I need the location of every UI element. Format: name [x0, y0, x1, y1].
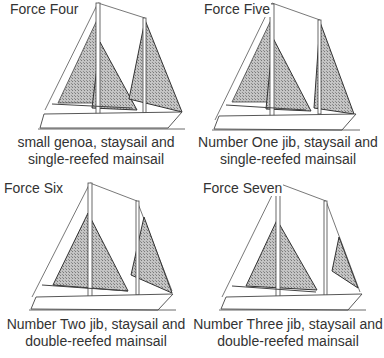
panel-caption: Number Three jib, staysail and double-re… [192, 316, 384, 350]
mizzen-sail [129, 20, 182, 112]
hull [40, 112, 182, 128]
caption-line-2: double-reefed mainsail [192, 333, 384, 350]
panel-force-six: Force Six Number Two jib, staysail and d… [0, 179, 192, 358]
panel-title: Force Four [9, 1, 79, 17]
main-mast [96, 3, 100, 115]
caption-line-1: Number One jib, staysail and [192, 134, 384, 151]
panel-title: Force Seven [202, 180, 283, 196]
caption-line-1: Number Two jib, staysail and [0, 316, 192, 333]
panel-force-four: Force Four small genoa, staysail and sin… [0, 0, 192, 179]
caption-line-1: small genoa, staysail and [0, 134, 192, 151]
panel-force-five: Force Five Number One jib, staysail and … [192, 0, 384, 179]
panel-caption: Number Two jib, staysail and double-reef… [0, 316, 192, 350]
panel-title: Force Five [203, 1, 271, 17]
caption-line-1: Number Three jib, staysail and [192, 316, 384, 333]
genoa-sail [58, 20, 97, 103]
panel-caption: Number One jib, staysail and single-reef… [192, 134, 384, 168]
caption-line-2: single-reefed mainsail [192, 151, 384, 168]
caption-line-2: double-reefed mainsail [0, 333, 192, 350]
panel-force-seven: Force Seven Number Three jib, staysail a… [192, 179, 384, 358]
mizzen-mast [143, 18, 146, 113]
caption-line-2: single-reefed mainsail [0, 151, 192, 168]
panel-caption: small genoa, staysail and single-reefed … [0, 134, 192, 168]
panel-title: Force Six [3, 180, 64, 196]
